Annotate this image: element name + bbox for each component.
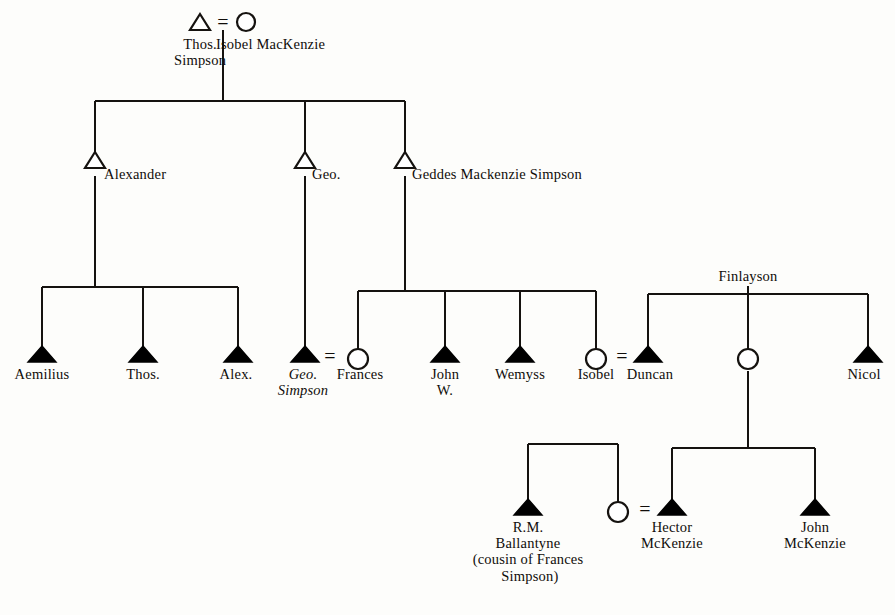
person-label-alexander: Alexander	[104, 166, 166, 182]
marriage-symbol-isobel-duncan: =	[616, 345, 627, 368]
symbol-male-thos-jr	[129, 346, 157, 362]
person-label-isobel-jr: Isobel	[578, 366, 615, 382]
person-label-rm-ballantyne: R.M. Ballantyne (cousin of Frances Simps…	[473, 519, 584, 584]
marriage-symbol-thos-isobel: =	[217, 11, 228, 34]
symbol-male-thos-simpson	[190, 14, 210, 30]
person-label-geo-simpson: Geo. Simpson	[278, 366, 329, 398]
tree-connector-lines	[0, 0, 895, 615]
person-label-duncan: Duncan	[627, 366, 673, 382]
person-label-aemilius: Aemilius	[15, 366, 70, 382]
symbol-male-john-mckenzie	[801, 499, 829, 515]
symbol-male-alexander	[85, 152, 105, 168]
symbol-male-nicol	[854, 346, 882, 362]
symbol-male-alex	[224, 346, 252, 362]
person-label-wemyss: Wemyss	[495, 366, 545, 382]
person-label-geo: Geo.	[312, 166, 341, 182]
symbol-male-wemyss	[506, 346, 534, 362]
symbol-female-finlayson-daughter	[738, 349, 758, 369]
marriage-symbol-geo-frances: =	[324, 345, 335, 368]
symbol-male-hector-mckenzie	[658, 499, 686, 515]
marriage-symbol-sister-hector: =	[639, 498, 650, 521]
person-label-thos-jr: Thos.	[126, 366, 160, 382]
person-label-geddes-mackenzie-simpson: Geddes Mackenzie Simpson	[412, 166, 582, 182]
symbol-female-ballantyne-sister	[608, 502, 628, 522]
person-label-john-w: John W.	[431, 366, 459, 398]
person-label-alex: Alex.	[220, 366, 253, 382]
symbol-male-john-w	[431, 346, 459, 362]
person-label-hector-mckenzie: Hector McKenzie	[641, 519, 703, 551]
person-label-nicol: Nicol	[847, 366, 880, 382]
family-label-finlayson: Finlayson	[719, 268, 778, 284]
person-label-isobel-mackenzie: Isobel MacKenzie	[216, 36, 325, 52]
symbol-male-duncan	[634, 346, 662, 362]
person-label-frances: Frances	[337, 366, 384, 382]
symbol-female-isobel-mackenzie	[237, 13, 255, 31]
symbol-male-rm-ballantyne	[514, 499, 542, 515]
person-label-john-mckenzie: John McKenzie	[784, 519, 846, 551]
family-tree-diagram: = = = = Thos. Simpson Isobel MacKenzie A…	[0, 0, 895, 615]
symbol-male-geo-simpson	[291, 346, 319, 362]
symbol-male-aemilius	[28, 346, 56, 362]
